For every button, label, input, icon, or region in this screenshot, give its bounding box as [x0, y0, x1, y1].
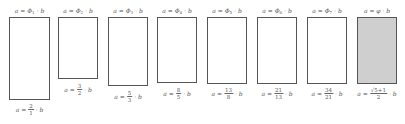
fraction: 85 — [176, 87, 182, 100]
ratio-label: a =53· b — [114, 90, 142, 103]
fraction: 2113 — [274, 87, 283, 100]
fraction: 32 — [77, 83, 83, 96]
ratio-label: a =138· b — [211, 87, 242, 100]
fraction: √5+12 — [370, 87, 387, 100]
fraction: 138 — [224, 87, 233, 100]
rectangle-3 — [108, 17, 148, 86]
golden-rectangle — [357, 17, 397, 84]
rectangle-1 — [9, 17, 50, 100]
ratio-label: a =3421· b — [311, 87, 342, 100]
fraction: 53 — [127, 90, 133, 103]
fraction: 3421 — [324, 87, 333, 100]
top-label: a = Φ3 · b — [113, 7, 142, 15]
top-label: a = Φ6 · b — [262, 7, 291, 15]
top-label: a = Φ4 · b — [162, 7, 191, 15]
rectangle-6 — [257, 17, 297, 84]
ratio-label: a =21· b — [16, 103, 44, 116]
top-label: a = Φ7 · b — [312, 7, 341, 15]
rectangle-4 — [157, 17, 197, 83]
ratio-label: a =85· b — [163, 87, 191, 100]
ratio-label: a =√5+12· b — [357, 87, 396, 100]
top-label: a = φ · b — [364, 7, 390, 14]
fraction: 21 — [28, 103, 34, 116]
ratio-label: a =32· b — [64, 83, 92, 96]
top-label: a = Φ5 · b — [212, 7, 241, 15]
rectangle-7 — [307, 17, 347, 84]
top-label: a = Φ1 · b — [15, 7, 44, 15]
ratio-label: a =2113· b — [261, 87, 292, 100]
rectangle-2 — [58, 17, 98, 79]
top-label: a = Φ2 · b — [63, 7, 92, 15]
rectangle-5 — [207, 17, 247, 84]
